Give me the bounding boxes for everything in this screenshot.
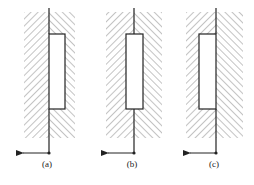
cavity-rect bbox=[49, 34, 65, 109]
diagram-figure: (a)(b)(c) bbox=[0, 0, 254, 185]
hatch-left bbox=[24, 12, 49, 138]
panel-b: (b) bbox=[106, 8, 162, 169]
panel-label: (a) bbox=[42, 159, 52, 169]
cavity-rect bbox=[126, 34, 143, 109]
panels-group: (a)(b)(c) bbox=[23, 8, 243, 169]
panel-label: (b) bbox=[127, 159, 138, 169]
cavity-rect bbox=[199, 34, 216, 109]
panel-a: (a) bbox=[23, 8, 75, 169]
panel-c: (c) bbox=[186, 8, 243, 169]
panel-label: (c) bbox=[209, 159, 219, 169]
hatch-right bbox=[216, 12, 243, 138]
